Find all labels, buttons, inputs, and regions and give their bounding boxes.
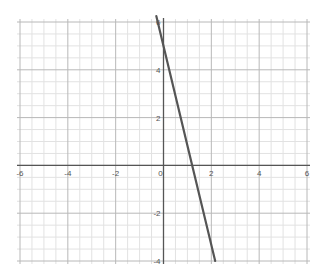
chart-plot-area: -6-4-20246-4-2246 bbox=[0, 0, 324, 273]
y-tick-label: -2 bbox=[153, 209, 161, 218]
x-tick-label: -6 bbox=[16, 169, 24, 178]
x-tick-label: -2 bbox=[112, 169, 120, 178]
x-tick-label: -4 bbox=[64, 169, 72, 178]
line-series bbox=[156, 16, 215, 261]
data-series bbox=[156, 16, 215, 261]
x-tick-label: 4 bbox=[257, 169, 262, 178]
x-tick-label: 0 bbox=[158, 169, 163, 178]
y-tick-label: 2 bbox=[156, 114, 161, 123]
x-tick-label: 2 bbox=[209, 169, 214, 178]
y-tick-label: -4 bbox=[153, 257, 161, 266]
y-tick-label: 4 bbox=[156, 66, 161, 75]
x-tick-label: 6 bbox=[305, 169, 310, 178]
